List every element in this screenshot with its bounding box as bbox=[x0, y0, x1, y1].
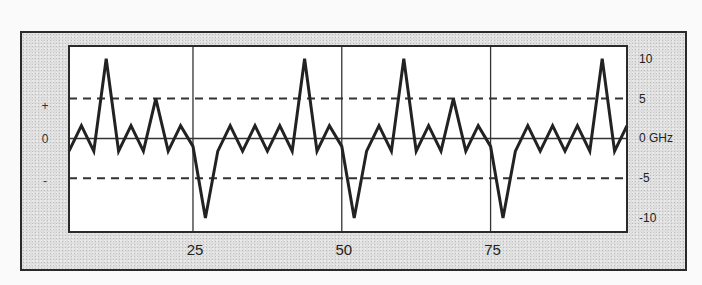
y-axis-left-symbols: +0- bbox=[41, 99, 48, 188]
x-tick-75: 75 bbox=[484, 241, 501, 258]
chart-stage: 255075 1050 GHz-5-10 +0- bbox=[0, 0, 702, 285]
y-tick-10: 10 bbox=[639, 52, 653, 66]
y-left-symbol: + bbox=[41, 99, 48, 113]
y-tick-0: 0 GHz bbox=[639, 131, 673, 145]
x-axis-tick-labels: 255075 bbox=[187, 241, 501, 258]
x-tick-25: 25 bbox=[187, 241, 204, 258]
line-chart: 255075 1050 GHz-5-10 +0- bbox=[0, 0, 702, 285]
y-tick--5: -5 bbox=[639, 171, 650, 185]
y-tick-5: 5 bbox=[639, 92, 646, 106]
y-left-symbol: - bbox=[43, 174, 47, 188]
y-tick--10: -10 bbox=[639, 211, 657, 225]
y-left-symbol: 0 bbox=[42, 132, 49, 146]
y-axis-right-tick-labels: 1050 GHz-5-10 bbox=[639, 52, 673, 225]
x-tick-50: 50 bbox=[335, 241, 352, 258]
